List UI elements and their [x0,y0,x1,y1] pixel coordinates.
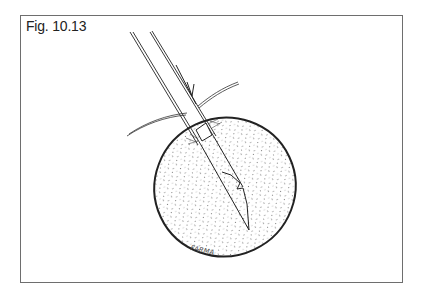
direction-arrow-icon [176,65,196,104]
needle-illustration: FARMA [0,0,424,301]
